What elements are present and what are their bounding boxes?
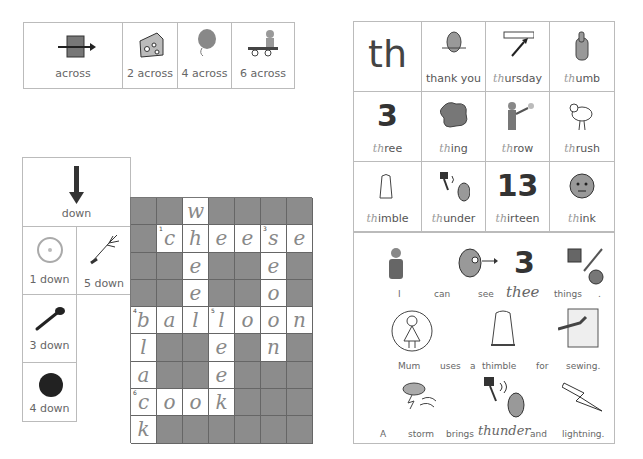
crossword-cell[interactable]: l bbox=[183, 307, 209, 334]
crossword-block bbox=[131, 225, 157, 252]
handwritten-th: th bbox=[564, 72, 576, 85]
word: I bbox=[398, 289, 401, 299]
crossword-cell[interactable]: k bbox=[131, 416, 157, 443]
crossword-cell[interactable]: a bbox=[131, 362, 157, 389]
printed-word-part: row bbox=[513, 142, 533, 155]
th-word-label: thumb bbox=[550, 72, 614, 85]
crossword-block bbox=[131, 253, 157, 280]
thunder-icon bbox=[438, 170, 470, 202]
crossword-cell[interactable]: o bbox=[261, 307, 287, 334]
calendar-arrow-icon bbox=[502, 30, 534, 62]
clue-number: 6 bbox=[133, 389, 137, 396]
crossword-block bbox=[209, 416, 235, 443]
crossword-block bbox=[157, 334, 183, 361]
clue-5-down: 5 down bbox=[76, 226, 131, 295]
crossword-cell[interactable]: o bbox=[261, 280, 287, 307]
crossword-cell[interactable]: e bbox=[209, 362, 235, 389]
word: see bbox=[478, 289, 494, 299]
crossword-block bbox=[235, 416, 261, 443]
across-clue-strip: across 2 across 4 across 6 across bbox=[23, 22, 295, 89]
crossword-cell[interactable]: w bbox=[183, 198, 209, 225]
crossword-cell[interactable]: h bbox=[183, 225, 209, 252]
leek-icon bbox=[87, 233, 121, 267]
crossword-block bbox=[209, 198, 235, 225]
handwritten-letter: o bbox=[235, 308, 260, 332]
handwritten-th: th bbox=[496, 212, 508, 225]
crossword-cell[interactable]: n bbox=[287, 307, 313, 334]
crossword-block bbox=[209, 253, 235, 280]
word: sewing. bbox=[566, 361, 600, 371]
crossword-block bbox=[183, 362, 209, 389]
crossword-block bbox=[157, 198, 183, 225]
crossword-cell[interactable]: e bbox=[183, 253, 209, 280]
th-title-cell: th bbox=[354, 22, 422, 92]
th-word-label: thank you bbox=[422, 72, 485, 85]
handwritten-letter: e bbox=[209, 226, 234, 250]
down-clue-panel: down 1 down 5 down 3 down 4 down bbox=[22, 157, 131, 422]
thimble-icon bbox=[486, 309, 520, 349]
crossword-block bbox=[287, 416, 313, 443]
word: a bbox=[470, 361, 476, 371]
crossword-cell[interactable]: e bbox=[287, 225, 313, 252]
word: . bbox=[598, 289, 601, 299]
th-word-label: thirteen bbox=[486, 212, 549, 225]
crossword-cell[interactable]: o bbox=[235, 307, 261, 334]
crossword-cell[interactable]: e bbox=[235, 225, 261, 252]
th-word-label: thursday bbox=[486, 72, 549, 85]
crossword-cell[interactable]: c6 bbox=[131, 389, 157, 416]
crossword-block bbox=[235, 362, 261, 389]
th-word-label: thimble bbox=[354, 212, 421, 225]
sign-thank-you-icon bbox=[438, 30, 470, 62]
clue-number: 5 bbox=[211, 307, 215, 314]
down-header-cell: down bbox=[22, 157, 131, 227]
crossword-grid[interactable]: wc1hees3eeeeob4all5oonlenaec6ookk bbox=[130, 197, 312, 443]
clue-label: 6 across bbox=[232, 67, 294, 80]
handwritten-th: th bbox=[568, 212, 580, 225]
handwritten-letter: e bbox=[183, 254, 208, 278]
crossword-cell[interactable]: k bbox=[209, 389, 235, 416]
th-word-cell: thunder bbox=[422, 162, 486, 232]
crossword-block bbox=[183, 416, 209, 443]
crossword-cell[interactable]: b4 bbox=[131, 307, 157, 334]
sewing-icon bbox=[558, 307, 602, 351]
crossword-cell[interactable]: a bbox=[157, 307, 183, 334]
crossword-cell[interactable]: e bbox=[209, 334, 235, 361]
crossword-block bbox=[131, 280, 157, 307]
handwritten-letter: a bbox=[157, 308, 182, 332]
crossword-cell[interactable]: o bbox=[157, 389, 183, 416]
handwritten-word: thunder bbox=[478, 423, 531, 438]
cheese-icon bbox=[137, 31, 165, 59]
crossword-block bbox=[287, 334, 313, 361]
crossword-cell[interactable]: s3 bbox=[261, 225, 287, 252]
wheel-icon bbox=[35, 235, 65, 265]
printed-word-part: imble bbox=[378, 212, 409, 225]
th-word-cell: 3three bbox=[354, 92, 422, 162]
balloon-icon bbox=[194, 29, 218, 59]
crossword-cell[interactable]: e bbox=[261, 253, 287, 280]
word: can bbox=[434, 289, 450, 299]
word: Mum bbox=[398, 361, 420, 371]
crossword-cell[interactable]: e bbox=[209, 225, 235, 252]
handwritten-letter: k bbox=[209, 390, 234, 414]
printed-word-part: thank you bbox=[426, 72, 481, 85]
down-header-label: down bbox=[23, 207, 130, 220]
crossword-cell[interactable]: c1 bbox=[157, 225, 183, 252]
word: and bbox=[530, 429, 547, 439]
th-word-cell: thrush bbox=[550, 92, 614, 162]
crossword-block bbox=[261, 198, 287, 225]
handwritten-letter: k bbox=[131, 417, 156, 441]
see-face-icon bbox=[458, 247, 498, 279]
crossword-cell[interactable]: l5 bbox=[209, 307, 235, 334]
crossword-cell[interactable]: e bbox=[183, 280, 209, 307]
clue-6-across: 6 across bbox=[232, 23, 294, 88]
crossword-cell[interactable]: o bbox=[183, 389, 209, 416]
storm-icon bbox=[400, 381, 438, 411]
handwritten-letter: l bbox=[131, 335, 156, 359]
across-header-label: across bbox=[24, 67, 122, 80]
clue-2-across: 2 across bbox=[123, 23, 178, 88]
thinking-face-icon bbox=[566, 170, 598, 202]
crossword-cell[interactable]: l bbox=[131, 334, 157, 361]
printed-word-part: rush bbox=[576, 142, 600, 155]
crossword-cell[interactable]: n bbox=[261, 334, 287, 361]
clue-label: 4 down bbox=[23, 402, 76, 415]
